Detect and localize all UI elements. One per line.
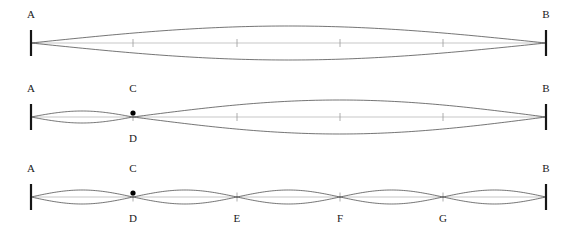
point-label-p3-B: B — [542, 163, 549, 174]
point-label-p2-B: B — [542, 83, 549, 94]
wave-lower-lobe-3-panel-3 — [237, 197, 340, 204]
wave-upper-right-panel-2 — [133, 100, 546, 117]
point-label-p3-D: D — [129, 213, 137, 224]
wave-lower-lobe-1-panel-3 — [31, 197, 133, 204]
point-label-p2-C: C — [129, 83, 136, 94]
wave-lower-lobe-5-panel-3 — [443, 197, 546, 204]
standing-wave-figure — [0, 0, 571, 238]
wave-upper-left-panel-2 — [31, 111, 133, 117]
wave-lower-lobe-2-panel-3 — [133, 197, 237, 204]
wave-lower-lobe-4-panel-3 — [340, 197, 443, 204]
wave-upper-panel-1 — [31, 26, 546, 43]
wave-upper-lobe-4-panel-3 — [340, 190, 443, 197]
point-label-p3-G: G — [439, 213, 447, 224]
node-dot-cd-panel-2 — [130, 110, 135, 115]
panel-fifth-harmonic-mode — [31, 184, 546, 210]
point-label-p2-D: D — [129, 133, 137, 144]
wave-lower-left-panel-2 — [31, 117, 133, 123]
wave-upper-lobe-3-panel-3 — [237, 190, 340, 197]
point-label-p1-A: A — [27, 9, 35, 20]
point-label-p3-F: F — [337, 213, 343, 224]
point-label-p3-A: A — [27, 163, 35, 174]
point-label-p1-B: B — [542, 9, 549, 20]
wave-upper-lobe-1-panel-3 — [31, 190, 133, 197]
point-label-p3-C: C — [129, 163, 136, 174]
wave-lower-panel-1 — [31, 43, 546, 60]
wave-upper-lobe-2-panel-3 — [133, 190, 237, 197]
wave-upper-lobe-5-panel-3 — [443, 190, 546, 197]
figure-canvas: ABABCDABCDEFG — [0, 0, 571, 238]
wave-lower-right-panel-2 — [133, 117, 546, 134]
panel-mixed-mode — [31, 100, 546, 134]
panel-fundamental-mode — [31, 26, 546, 60]
node-dot-cd-panel-3 — [130, 190, 135, 195]
point-label-p3-E: E — [234, 213, 241, 224]
point-label-p2-A: A — [27, 83, 35, 94]
